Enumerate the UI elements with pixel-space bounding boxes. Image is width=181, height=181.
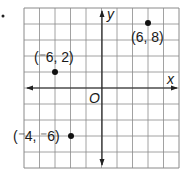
- point-marker: [145, 20, 151, 26]
- bullet-marker: [2, 15, 5, 18]
- y-axis-label: y: [106, 6, 115, 22]
- x-axis-left-arrow-icon: [26, 86, 33, 91]
- point-label: (⁻4, ⁻6): [13, 128, 60, 144]
- point-marker: [68, 133, 74, 139]
- y-axis-down-arrow-icon: [100, 159, 105, 166]
- origin-label: O: [89, 90, 100, 106]
- point-marker: [52, 69, 58, 75]
- point-neg6-2: (⁻6, 2): [34, 49, 74, 75]
- y-axis-up-arrow-icon: [100, 10, 105, 17]
- point-label: (⁻6, 2): [34, 49, 74, 65]
- coordinate-plane: y x O (6, 8) (⁻6, 2) (⁻4, ⁻6): [0, 0, 181, 181]
- point-label: (6, 8): [131, 29, 164, 45]
- x-axis-label: x: [166, 71, 175, 87]
